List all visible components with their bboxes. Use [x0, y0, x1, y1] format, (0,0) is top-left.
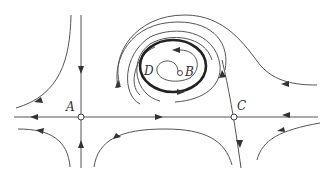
phase-portrait-diagram: A B C D	[0, 0, 329, 178]
arrow-icon	[277, 127, 285, 132]
label-d: D	[144, 65, 154, 77]
arrow-right-icon	[155, 114, 163, 120]
label-b: B	[185, 66, 194, 78]
arrow-up-icon	[78, 140, 84, 148]
arrow-left-icon	[281, 81, 289, 87]
point-a	[78, 114, 84, 120]
label-c: C	[237, 100, 246, 112]
trajectory-a-upper-left	[16, 15, 71, 108]
point-c	[231, 114, 237, 120]
arrow-down-icon	[78, 66, 84, 74]
trajectory-c-lower-left	[165, 129, 232, 165]
arrow-down-icon	[236, 140, 243, 148]
trajectory-a-lower-left	[18, 129, 70, 167]
arrow-left-icon	[30, 114, 38, 120]
label-a: A	[66, 101, 75, 113]
arrow-left-icon	[172, 47, 180, 53]
trajectory-c-lower-right	[257, 123, 320, 160]
phase-portrait-canvas	[0, 0, 329, 178]
arrow-icon	[113, 133, 121, 139]
trajectory-a-lower-right	[94, 129, 165, 167]
point-b	[178, 71, 183, 76]
